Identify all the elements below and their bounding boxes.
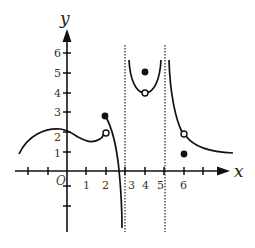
curve-branch-4: [169, 60, 233, 153]
filled-point-4-5: [142, 69, 149, 76]
x-tick-4: 4: [142, 179, 149, 192]
x-tick-3: 3: [128, 179, 135, 192]
y-tick-5: 5: [54, 67, 61, 80]
curve-branch-3: [129, 60, 161, 93]
function-graph: x 1 2 3 4 5 6 O y 6 5 4 3 2 1: [0, 0, 255, 248]
y-tick-1: 1: [54, 147, 61, 160]
y-tick-4: 4: [54, 87, 61, 100]
x-tick-1: 1: [83, 179, 90, 192]
y-axis-arrow-icon: [63, 29, 72, 42]
filled-point-6-1: [181, 151, 188, 158]
x-tick-5: 5: [157, 179, 164, 192]
x-axis: x 1 2 3 4 5 6 O: [15, 161, 244, 192]
y-tick-3: 3: [54, 106, 61, 119]
y-axis-label: y: [59, 8, 70, 28]
curve-branch-1: [19, 129, 104, 154]
x-tick-2: 2: [102, 179, 109, 192]
y-tick-6: 6: [54, 47, 61, 60]
filled-point-2-3: [102, 113, 109, 120]
open-point-4-4: [142, 90, 148, 96]
y-tick-2: 2: [54, 131, 61, 144]
y-axis: y 6 5 4 3 2 1: [54, 8, 72, 232]
x-axis-arrow-icon: [217, 167, 230, 176]
open-point-2-2: [103, 130, 109, 136]
open-point-6-2: [181, 131, 187, 137]
x-axis-label: x: [234, 161, 244, 181]
x-tick-6: 6: [180, 179, 187, 192]
